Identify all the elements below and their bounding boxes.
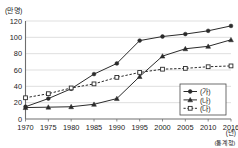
x-tick-label: 1980 [63, 123, 79, 132]
data-point-marker [92, 72, 96, 76]
x-tick-label: 1975 [40, 123, 56, 132]
data-point-marker [161, 67, 165, 71]
data-point-marker [92, 82, 96, 86]
data-point-marker [229, 64, 233, 68]
data-point-marker [138, 71, 142, 75]
data-point-marker [183, 66, 187, 70]
legend-label-나: (나) [200, 96, 211, 105]
data-point-marker [229, 24, 233, 28]
legend-label-가: (가) [200, 87, 211, 96]
data-point-marker [138, 39, 142, 43]
source-label: (통계청) [215, 138, 236, 147]
data-point-marker [229, 37, 234, 41]
y-axis-tick-labels: 020406080100120 [10, 17, 22, 124]
y-tick-label: 40 [14, 82, 22, 91]
x-tick-label: 2000 [154, 123, 170, 132]
data-point-marker [69, 86, 73, 90]
x-axis-tick-labels: 1970197519801985199019952000200520102016 [17, 123, 238, 132]
x-tick-label: 1985 [86, 123, 102, 132]
y-tick-label: 20 [14, 98, 22, 107]
data-point-marker [188, 90, 192, 94]
data-point-marker [183, 32, 187, 36]
x-tick-label: 1970 [17, 123, 33, 132]
y-tick-label: 120 [10, 17, 22, 26]
data-point-marker [24, 96, 28, 100]
legend: (가)(나)(다) [180, 84, 226, 115]
data-point-marker [206, 29, 210, 33]
x-tick-label: 2010 [200, 123, 216, 132]
data-point-marker [46, 97, 50, 101]
data-point-marker [161, 35, 165, 39]
line-chart: (만 명) 020406080100120 197019751980198519… [0, 0, 238, 148]
legend-label-다: (다) [200, 104, 211, 113]
y-tick-label: 60 [14, 66, 22, 75]
data-point-marker [115, 62, 119, 66]
x-tick-label: 1990 [109, 123, 125, 132]
x-tick-label: 1995 [131, 123, 147, 132]
x-tick-label: 2005 [177, 123, 193, 132]
x-axis-unit-label: (년) [226, 127, 236, 137]
y-tick-label: 80 [14, 49, 22, 58]
chart-canvas: 020406080100120 197019751980198519901995… [0, 0, 238, 148]
data-point-marker [206, 65, 210, 69]
y-tick-label: 100 [10, 33, 22, 42]
data-point-marker [115, 75, 119, 79]
data-point-marker [46, 92, 50, 96]
data-point-marker [188, 106, 192, 110]
